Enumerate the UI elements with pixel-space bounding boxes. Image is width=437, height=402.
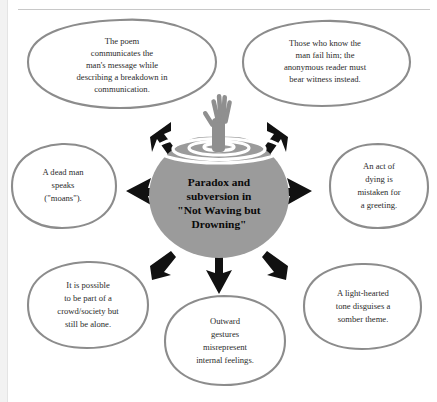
bc-line-0: Outward xyxy=(210,316,241,326)
l-line-0: A dead man xyxy=(42,167,84,177)
node-right[interactable]: An act of dying is mistaken for a greeti… xyxy=(330,144,428,228)
l-line-1: speaks xyxy=(52,180,76,190)
tr-line-3: bear witness instead. xyxy=(289,74,360,84)
bc-line-1: gestures xyxy=(211,329,240,339)
node-bottom-center[interactable]: Outward gestures misrepresent internal f… xyxy=(165,296,285,385)
arrow-down-right xyxy=(262,251,288,280)
center-line-3: Drowning" xyxy=(192,218,247,230)
node-top-right[interactable]: Those who know the man fail him; the ano… xyxy=(243,21,410,106)
tr-line-0: Those who know the xyxy=(289,38,361,48)
center-line-1: subversion in xyxy=(187,190,253,202)
concept-map-diagram: Paradox and subversion in "Not Waving bu… xyxy=(0,0,437,402)
tr-line-2: anonymous reader must xyxy=(284,62,367,72)
center-line-2: "Not Waving but xyxy=(177,204,261,216)
node-bottom-right-label: A light-hearted tone disguises a somber … xyxy=(336,288,391,324)
tr-line-1: man fail him; the xyxy=(296,50,355,60)
br-line-1: tone disguises a xyxy=(336,301,391,311)
l-line-2: ("moans"). xyxy=(44,193,81,203)
bl-line-3: still be alone. xyxy=(65,319,111,329)
node-top-left[interactable]: The poem communicates the man's message … xyxy=(28,20,216,108)
bl-line-2: crowd/society but xyxy=(57,306,119,316)
bl-line-0: It is possible xyxy=(66,280,110,290)
r-line-1: dying is xyxy=(365,174,393,184)
center-line-0: Paradox and xyxy=(188,176,251,188)
tl-line-4: communication. xyxy=(94,84,150,94)
r-line-0: An act of xyxy=(363,161,395,171)
bc-line-2: misrepresent xyxy=(203,342,248,352)
arrow-down-left xyxy=(150,251,176,280)
bl-line-1: to be part of a xyxy=(64,293,112,303)
bc-line-3: internal feelings. xyxy=(196,355,254,365)
br-line-0: A light-hearted xyxy=(337,288,389,298)
node-left[interactable]: A dead man speaks ("moans"). xyxy=(12,144,116,228)
tl-line-1: communicates the xyxy=(91,48,153,58)
tl-line-2: man's message while xyxy=(86,60,158,70)
tl-line-3: describing a breakdown in xyxy=(77,72,169,82)
r-line-2: mistaken for xyxy=(357,187,400,197)
r-line-3: a greeting. xyxy=(361,200,397,210)
node-bottom-right[interactable]: A light-hearted tone disguises a somber … xyxy=(304,264,421,349)
arrow-down xyxy=(206,252,232,294)
tl-line-0: The poem xyxy=(105,36,140,46)
node-bottom-left[interactable]: It is possible to be part of a crowd/soc… xyxy=(28,262,148,348)
br-line-2: somber theme. xyxy=(338,314,389,324)
center-node[interactable]: Paradox and subversion in "Not Waving bu… xyxy=(149,94,289,258)
diagram-page: Paradox and subversion in "Not Waving bu… xyxy=(0,0,437,402)
